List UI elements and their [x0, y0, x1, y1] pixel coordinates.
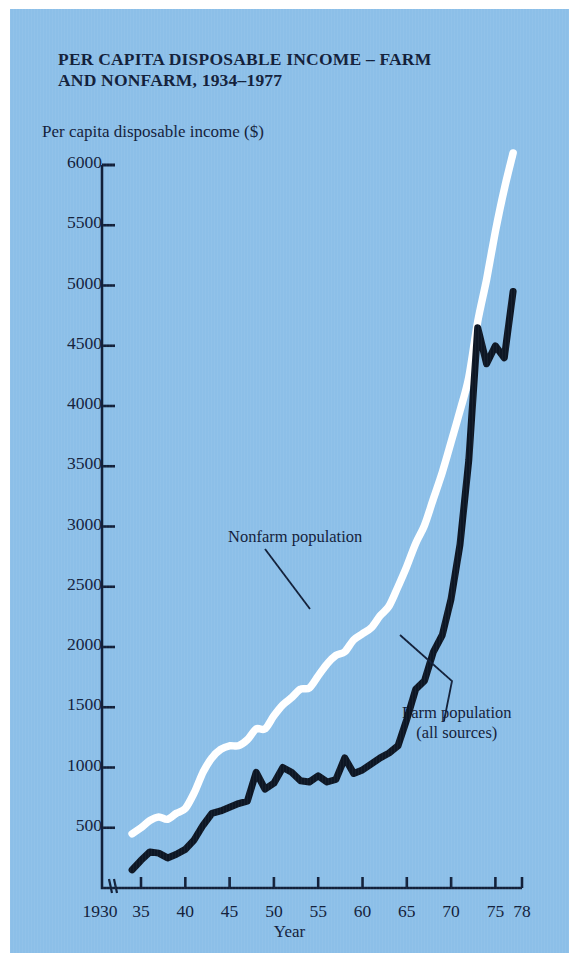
series-line-farm: [132, 292, 513, 870]
x-axis-break-mark: [114, 879, 117, 893]
plot-area: [10, 9, 569, 953]
series-line-nonfarm: [132, 153, 513, 834]
x-axis-break-mark: [109, 879, 112, 893]
leader-line-nonfarm: [265, 549, 310, 609]
chart-panel: PER CAPITA DISPOSABLE INCOME – FARM AND …: [10, 9, 569, 953]
chart-figure: PER CAPITA DISPOSABLE INCOME – FARM AND …: [0, 0, 579, 972]
